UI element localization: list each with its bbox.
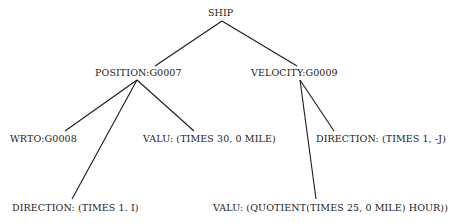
edge-ship-velocity [222, 21, 297, 66]
node-ship: SHIP [208, 7, 233, 19]
node-wrto: WRTO:G0008 [10, 133, 77, 145]
edge-velocity-valu [300, 80, 316, 199]
node-velocity-valu: VALU: (QUOTIENT(TIMES 25, 0 MILE) HOUR)) [213, 202, 448, 214]
tree-edges [0, 0, 458, 223]
edge-ship-position [155, 21, 222, 66]
node-position-direction: DIRECTION: (TIMES 1. I) [12, 202, 139, 214]
edge-position-valu [137, 80, 194, 131]
node-position-valu: VALU: (TIMES 30, 0 MILE) [143, 133, 276, 145]
edge-velocity-direction [300, 80, 334, 131]
node-position: POSITION:G0007 [95, 67, 182, 79]
edge-position-direction [72, 80, 137, 199]
tree-diagram: SHIP POSITION:G0007 VELOCITY:G0009 WRTO:… [0, 0, 458, 223]
node-velocity: VELOCITY:G0009 [251, 67, 338, 79]
edge-position-wrto [65, 80, 137, 131]
node-velocity-direction: DIRECTION: (TIMES 1, -J) [316, 133, 446, 145]
